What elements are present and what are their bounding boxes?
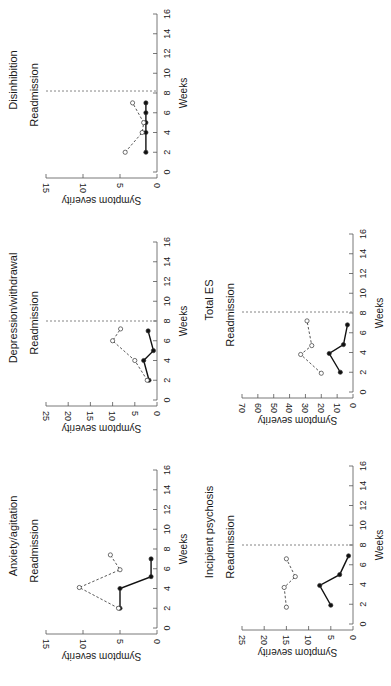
weeks-tick-label: 6: [358, 330, 368, 335]
weeks-tick-label: 12: [358, 500, 368, 510]
filled-series-line: [329, 325, 347, 372]
weeks-tick-label: 4: [358, 582, 368, 587]
readmission-label: Readmission: [224, 515, 236, 579]
filled-data-point: [142, 358, 146, 362]
panel-title: Disinhibition: [7, 50, 19, 109]
weeks-tick-label: 6: [162, 110, 172, 115]
readmission-label: Readmission: [28, 63, 40, 127]
severity-tick-label: 5: [115, 639, 125, 644]
weeks-tick-label: 10: [162, 296, 172, 306]
weeks-tick-label: 0: [358, 621, 368, 626]
weeks-tick-label: 4: [358, 350, 368, 355]
open-data-point: [116, 606, 120, 610]
weeks-tick-label: 10: [162, 68, 172, 78]
weeks-tick-label: 16: [162, 9, 172, 19]
filled-data-point: [144, 101, 148, 105]
open-data-point: [310, 343, 314, 347]
open-data-point: [118, 568, 122, 572]
severity-tick-label: 0: [348, 403, 358, 408]
weeks-tick-label: 14: [162, 485, 172, 495]
open-series-line: [79, 555, 120, 608]
weeks-tick-label: 6: [162, 338, 172, 343]
weeks-tick-label: 2: [358, 602, 368, 607]
severity-tick-label: 5: [115, 183, 125, 188]
weeks-tick-label: 0: [162, 169, 172, 174]
weeks-tick-label: 8: [162, 90, 172, 95]
severity-axis-label: Symptom severity: [258, 647, 337, 658]
chart-svg: 05101520250246810121416WeeksSymptom seve…: [0, 228, 195, 456]
chart-svg: 0510150246810121416WeeksSymptom severity…: [0, 456, 195, 684]
weeks-tick-label: 2: [358, 370, 368, 375]
open-data-point: [118, 327, 122, 331]
panel-title: Incipient psychosis: [203, 485, 215, 578]
severity-tick-label: 0: [348, 635, 358, 640]
weeks-tick-label: 14: [358, 249, 368, 259]
severity-axis-label: Symptom severity: [258, 415, 337, 426]
severity-axis-label: Symptom severity: [62, 651, 141, 662]
open-data-point: [305, 319, 309, 323]
weeks-tick-label: 14: [358, 481, 368, 491]
filled-data-point: [341, 343, 345, 347]
severity-tick-label: 25: [237, 635, 247, 645]
filled-data-point: [338, 573, 342, 577]
weeks-tick-label: 14: [162, 257, 172, 267]
weeks-tick-label: 4: [162, 358, 172, 363]
open-data-point: [108, 553, 112, 557]
severity-tick-label: 25: [41, 411, 51, 421]
weeks-tick-label: 14: [162, 29, 172, 39]
open-data-point: [133, 358, 137, 362]
panel-title: Depression/withdrawal: [7, 253, 19, 364]
panel-depression-withdrawal: 05101520250246810121416WeeksSymptom seve…: [0, 228, 195, 456]
open-data-point: [142, 121, 146, 125]
weeks-tick-label: 8: [162, 318, 172, 323]
weeks-tick-label: 4: [162, 586, 172, 591]
filled-series-line: [120, 559, 151, 608]
severity-tick-label: 10: [332, 403, 342, 413]
open-data-point: [130, 101, 134, 105]
open-data-point: [140, 130, 144, 134]
panel-disinhibition: 0510150246810121416WeeksSymptom severity…: [0, 0, 195, 228]
severity-tick-label: 15: [85, 411, 95, 421]
filled-data-point: [345, 323, 349, 327]
filled-data-point: [318, 583, 322, 587]
open-data-point: [284, 605, 288, 609]
weeks-tick-label: 16: [162, 237, 172, 247]
open-series-line: [113, 329, 148, 380]
open-data-point: [299, 352, 303, 356]
filled-data-point: [327, 351, 331, 355]
severity-tick-label: 10: [303, 635, 313, 645]
severity-tick-label: 15: [41, 639, 51, 649]
weeks-tick-label: 2: [162, 150, 172, 155]
filled-data-point: [329, 603, 333, 607]
weeks-tick-label: 12: [162, 276, 172, 286]
severity-tick-label: 0: [152, 411, 162, 416]
severity-tick-label: 70: [237, 403, 247, 413]
weeks-axis-label: Weeks: [374, 298, 385, 328]
weeks-tick-label: 12: [162, 504, 172, 514]
weeks-axis-label: Weeks: [178, 534, 189, 564]
panel-anxiety-agitation: 0510150246810121416WeeksSymptom severity…: [0, 456, 195, 684]
filled-series-line: [144, 331, 154, 380]
readmission-label: Readmission: [224, 283, 236, 347]
filled-data-point: [144, 150, 148, 154]
severity-tick-label: 60: [253, 403, 263, 413]
weeks-tick-label: 8: [358, 542, 368, 547]
weeks-tick-label: 12: [358, 268, 368, 278]
weeks-axis-label: Weeks: [178, 306, 189, 336]
figure: 0510150246810121416WeeksSymptom severity…: [0, 0, 391, 686]
open-data-point: [111, 339, 115, 343]
filled-data-point: [146, 329, 150, 333]
open-data-point: [284, 557, 288, 561]
weeks-tick-label: 16: [162, 465, 172, 475]
severity-tick-label: 20: [316, 403, 326, 413]
severity-axis-label: Symptom severity: [62, 423, 141, 434]
weeks-axis-label: Weeks: [374, 530, 385, 560]
weeks-tick-label: 10: [358, 520, 368, 530]
severity-tick-label: 5: [326, 635, 336, 640]
open-data-point: [319, 371, 323, 375]
weeks-tick-label: 6: [358, 562, 368, 567]
weeks-tick-label: 8: [358, 310, 368, 315]
weeks-tick-label: 10: [162, 524, 172, 534]
severity-tick-label: 50: [269, 403, 279, 413]
weeks-tick-label: 16: [358, 461, 368, 471]
